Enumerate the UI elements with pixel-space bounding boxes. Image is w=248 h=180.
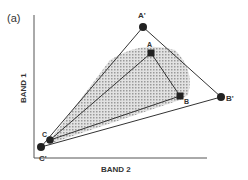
point-c-prime-marker xyxy=(37,143,45,151)
point-c-prime-label: C' xyxy=(39,154,47,163)
point-a-prime-marker xyxy=(139,23,147,31)
point-a-prime-label: A' xyxy=(138,11,146,20)
point-b-label: B xyxy=(184,98,189,105)
x-axis-label: BAND 2 xyxy=(101,165,131,174)
shaded-data-cloud xyxy=(50,47,190,143)
point-c-label: C xyxy=(42,131,47,138)
point-a-marker xyxy=(148,50,155,57)
point-b-marker xyxy=(177,93,184,100)
point-a-label: A xyxy=(147,41,152,48)
point-c-marker xyxy=(46,136,54,144)
panel-label: (a) xyxy=(7,12,20,24)
point-b-prime-marker xyxy=(217,93,225,101)
y-axis-label: BAND 1 xyxy=(19,73,28,103)
point-b-prime-label: B' xyxy=(226,94,234,103)
spectral-triangle-diagram: (a) BAND 1 BAND 2 A' A B B' C C' xyxy=(0,0,248,180)
